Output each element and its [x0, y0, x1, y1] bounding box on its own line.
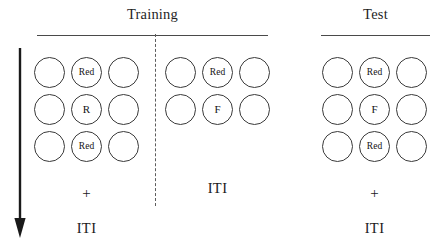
stimulus-circle [34, 131, 65, 162]
stimulus-circle: Red [202, 57, 233, 88]
iti-label: ITI [165, 181, 270, 196]
phase-rule-test [321, 35, 430, 36]
stimulus-circle [34, 94, 65, 125]
phase-title-training: Training [37, 6, 268, 23]
stimulus-circle: Red [71, 57, 102, 88]
stimulus-circle [239, 94, 270, 125]
trial-sequence-figure: Training Test Red R Red [0, 0, 439, 248]
stimulus-circle: Red [359, 57, 390, 88]
stimulus-circle [396, 94, 427, 125]
stimulus-circle: Red [71, 131, 102, 162]
phase-rule-training [37, 35, 268, 36]
stimulus-circle: F [202, 94, 233, 125]
stimulus-row: Red [34, 131, 139, 162]
time-arrow-icon [10, 46, 34, 242]
stimulus-circle: R [71, 94, 102, 125]
iti-label: ITI [322, 221, 427, 236]
stimulus-row: Red [322, 131, 427, 162]
stimulus-row: F [165, 94, 270, 125]
trial-divider-dashed-line [155, 34, 156, 206]
stimulus-label: Red [367, 68, 382, 78]
stimulus-label: Red [79, 68, 94, 78]
stimulus-row: Red [34, 57, 139, 88]
stimulus-label: Red [79, 142, 94, 152]
stimulus-circle [165, 94, 196, 125]
stimulus-label: R [83, 104, 90, 115]
stimulus-circle [108, 94, 139, 125]
fixation-cross: + [34, 186, 139, 201]
stimulus-grid: Red F [165, 57, 270, 131]
iti-label: ITI [34, 221, 139, 236]
stimulus-circle [396, 57, 427, 88]
stimulus-circle [239, 57, 270, 88]
phase-title-test: Test [321, 6, 430, 23]
stimulus-circle: F [359, 94, 390, 125]
stimulus-circle [322, 131, 353, 162]
stimulus-circle [322, 57, 353, 88]
stimulus-grid: Red F Red [322, 57, 427, 168]
stimulus-label: Red [367, 142, 382, 152]
stimulus-label: F [371, 104, 377, 115]
fixation-cross: + [322, 186, 427, 201]
stimulus-circle [165, 57, 196, 88]
stimulus-circle [108, 57, 139, 88]
stimulus-row: R [34, 94, 139, 125]
stimulus-row: F [322, 94, 427, 125]
stimulus-circle [34, 57, 65, 88]
stimulus-circle: Red [359, 131, 390, 162]
stimulus-row: Red [165, 57, 270, 88]
stimulus-grid: Red R Red [34, 57, 139, 168]
stimulus-circle [108, 131, 139, 162]
stimulus-circle [396, 131, 427, 162]
stimulus-circle [322, 94, 353, 125]
stimulus-label: F [214, 104, 220, 115]
stimulus-label: Red [210, 68, 225, 78]
stimulus-row: Red [322, 57, 427, 88]
